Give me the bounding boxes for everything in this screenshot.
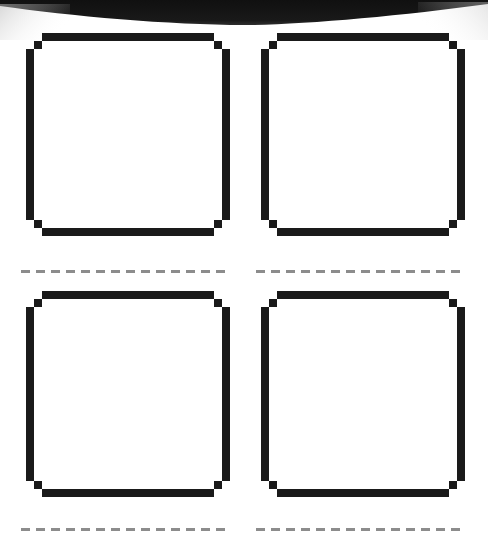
scanned-page <box>0 0 488 539</box>
dashed-separator <box>21 528 228 532</box>
answer-box[interactable] <box>261 33 465 236</box>
dashed-separator <box>21 270 228 274</box>
answer-box[interactable] <box>26 33 230 236</box>
answer-box[interactable] <box>261 291 465 497</box>
answer-box[interactable] <box>26 291 230 497</box>
rounded-square-outline-icon <box>26 291 230 497</box>
dashed-separator <box>256 270 468 274</box>
rounded-square-outline-icon <box>261 291 465 497</box>
dashed-separator <box>256 528 468 532</box>
rounded-square-outline-icon <box>261 33 465 236</box>
rounded-square-outline-icon <box>26 33 230 236</box>
